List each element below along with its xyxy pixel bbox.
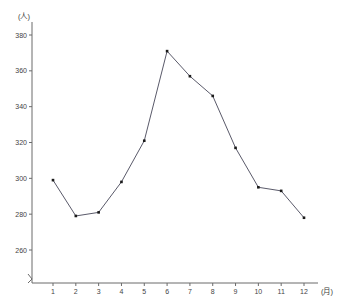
y-axis-tick-label: 360 [15,67,27,74]
x-axis-tick-label: 4 [120,288,124,295]
y-axis-tick-label: 320 [15,139,27,146]
data-point-marker: 10: 295 [257,186,260,189]
data-series-line [53,51,304,218]
data-point-marker: 2: 279 [75,215,78,218]
x-axis-tick-label: 2 [74,288,78,295]
data-point-marker: 6: 371 [166,50,169,53]
x-axis-unit-label: (月) [321,287,333,296]
data-point-marker: 9: 317 [234,147,237,150]
y-axis-tick-label: 340 [15,103,27,110]
y-axis-tick-label: 300 [15,175,27,182]
x-axis-tick-label: 1 [51,288,55,295]
y-axis-tick-label: 380 [15,32,27,39]
data-point-marker: 1: 299 [52,179,55,182]
chart-canvas: 260280300320340360380123456789101112(人)(… [0,0,342,307]
y-axis-tick-label: 260 [15,247,27,254]
x-axis-tick-label: 8 [211,288,215,295]
data-point-marker: 12: 278 [303,216,306,219]
data-point-marker: 11: 293 [280,190,283,193]
axis-break-mark [28,274,32,283]
x-axis-tick-label: 12 [300,288,308,295]
x-axis-tick-label: 7 [188,288,192,295]
x-axis-tick-label: 9 [234,288,238,295]
y-axis-tick-label: 280 [15,211,27,218]
data-point-marker: 3: 281 [97,211,100,214]
data-point-marker: 7: 357 [189,75,192,78]
x-axis-tick-label: 3 [97,288,101,295]
x-axis-tick-label: 6 [165,288,169,295]
x-axis-tick-label: 11 [278,288,285,295]
line-chart: 260280300320340360380123456789101112(人)(… [0,0,342,307]
data-point-marker: 5: 321 [143,139,146,142]
data-point-marker: 8: 346 [211,95,214,98]
y-axis-unit-label: (人) [18,12,30,21]
x-axis-tick-label: 10 [254,288,262,295]
x-axis-tick-label: 5 [142,288,146,295]
data-point-marker: 4: 298 [120,181,123,184]
